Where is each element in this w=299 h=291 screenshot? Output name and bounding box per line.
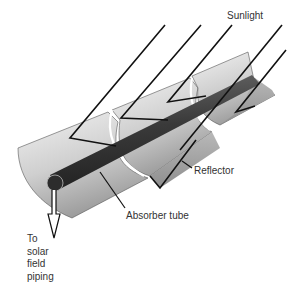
sunlight-label: Sunlight — [227, 10, 263, 23]
reflector-label: Reflector — [194, 165, 234, 178]
absorber-tube-label: Absorber tube — [126, 210, 189, 223]
outlet-label: To solar field piping — [27, 233, 54, 283]
solar-trough-diagram: Sunlight Reflector Absorber tube To sola… — [0, 0, 299, 291]
